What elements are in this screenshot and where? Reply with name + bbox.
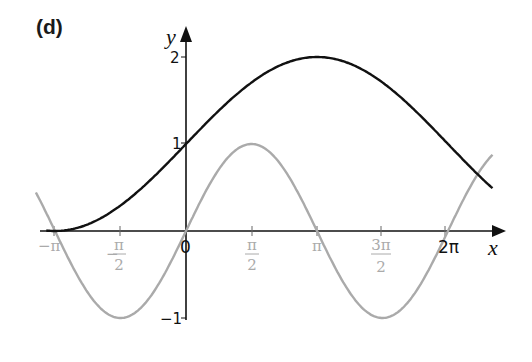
x-tick-neg-pi: −π	[38, 237, 61, 255]
x-tick-three-half-pi: 3π 2	[371, 236, 391, 276]
chart-canvas: (d) y x 2 1 −1 −π − π 2 0 π	[0, 0, 532, 362]
svg-text:3π: 3π	[371, 236, 391, 254]
svg-text:π: π	[114, 236, 124, 254]
y-tick-1: 1	[172, 135, 182, 153]
svg-text:2: 2	[114, 256, 124, 274]
y-tick-2: 2	[170, 49, 180, 67]
part-label: (d)	[36, 15, 63, 38]
svg-text:π: π	[247, 236, 257, 254]
svg-text:2: 2	[376, 258, 386, 276]
x-tick-two-pi: 2π	[438, 237, 459, 257]
y-axis	[180, 26, 192, 320]
x-axis	[40, 225, 506, 237]
y-tick-neg-1: −1	[160, 310, 182, 328]
y-axis-label: y	[164, 24, 176, 49]
x-tick-neg-half-pi: − π 2	[106, 236, 126, 274]
x-tick-zero: 0	[180, 237, 191, 257]
x-axis-label: x	[487, 235, 498, 260]
svg-text:2: 2	[247, 256, 257, 274]
x-tick-pi: π	[312, 237, 322, 255]
y-axis-arrow-icon	[180, 26, 192, 42]
series-one-plus-sin-half-x	[46, 57, 492, 231]
x-tick-half-pi: π 2	[245, 236, 259, 274]
